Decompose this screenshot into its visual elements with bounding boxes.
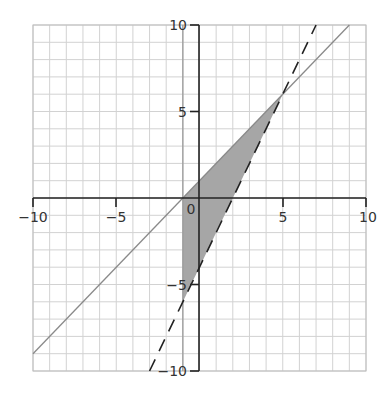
y-tick-label-neg5: −5 — [166, 277, 187, 293]
coordinate-plane: −10 −5 0 5 10 10 5 −5 −10 — [0, 0, 392, 395]
line-y-equals-x-plus-1 — [33, 25, 349, 354]
y-tick-label-neg10: −10 — [157, 363, 187, 379]
y-tick-label-5: 5 — [178, 104, 187, 120]
x-tick-label-neg10: −10 — [18, 209, 48, 225]
origin-label: 0 — [187, 201, 196, 217]
x-tick-label-neg5: −5 — [106, 209, 127, 225]
y-tick-label-10: 10 — [169, 17, 187, 33]
x-tick-label-5: 5 — [279, 209, 288, 225]
x-tick-label-10: 10 — [359, 209, 377, 225]
